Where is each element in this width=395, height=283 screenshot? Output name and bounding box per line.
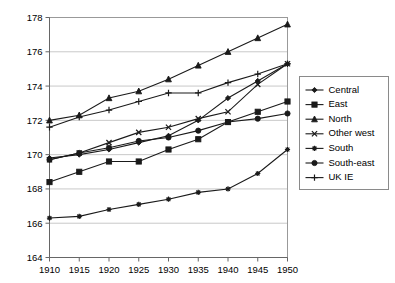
data-point-marker [47, 215, 52, 220]
x-tick-label: 1915 [69, 264, 90, 275]
line-chart: 1641661681701721741761781910191519201925… [0, 0, 395, 283]
data-point-marker [166, 135, 171, 140]
y-tick-label: 164 [27, 252, 43, 263]
y-tick-label: 174 [27, 81, 43, 92]
legend-item-label: South [329, 142, 354, 153]
x-tick-label: 1925 [128, 264, 149, 275]
data-point-marker [195, 90, 201, 96]
series-north [47, 21, 291, 123]
data-point-marker [106, 159, 111, 164]
x-axis-ticks: 191019151920192519301935194019451950 [39, 258, 298, 275]
legend-item-label: UK IE [329, 171, 354, 182]
data-point-marker [255, 171, 260, 176]
legend-item-label: North [329, 113, 352, 124]
data-point-marker [225, 79, 231, 85]
data-point-marker [136, 138, 141, 143]
data-point-marker [285, 147, 290, 152]
data-point-marker [285, 99, 290, 104]
data-point-marker [196, 137, 201, 142]
data-point-marker [285, 21, 291, 27]
data-point-marker [165, 90, 171, 96]
x-tick-label: 1940 [217, 264, 238, 275]
data-point-marker [106, 145, 111, 150]
data-point-marker [255, 116, 260, 121]
data-point-marker [255, 109, 260, 114]
data-point-marker [106, 140, 111, 145]
data-point-marker [255, 71, 261, 77]
y-tick-label: 172 [27, 115, 43, 126]
data-point-marker [136, 98, 142, 104]
x-tick-label: 1935 [188, 264, 209, 275]
data-point-marker [76, 114, 82, 120]
x-tick-label: 1910 [39, 264, 60, 275]
y-tick-label: 176 [27, 46, 43, 57]
series-group [46, 21, 290, 221]
data-point-marker [255, 35, 261, 41]
legend-item-label: East [329, 98, 348, 109]
data-point-marker [77, 214, 82, 219]
x-tick-label: 1930 [158, 264, 179, 275]
x-tick-label: 1920 [98, 264, 119, 275]
data-point-marker [225, 186, 230, 191]
data-point-marker [77, 169, 82, 174]
legend-item-label: Central [329, 84, 360, 95]
data-point-marker [312, 146, 317, 151]
data-point-marker [136, 202, 141, 207]
y-axis-ticks: 164166168170172174176178 [27, 12, 50, 263]
data-point-marker [47, 179, 52, 184]
data-point-marker [312, 160, 317, 165]
data-point-marker [46, 124, 52, 130]
series-south [47, 147, 290, 221]
series-polyline [50, 24, 288, 120]
data-point-marker [166, 197, 171, 202]
series-east [47, 99, 290, 185]
legend-item-label: South-east [329, 157, 375, 168]
series-polyline [50, 150, 288, 219]
legend: CentralEastNorthOther westSouthSouth-eas… [300, 77, 389, 190]
x-tick-label: 1945 [247, 264, 268, 275]
y-tick-label: 170 [27, 149, 43, 160]
data-point-marker [166, 147, 171, 152]
legend-item-label: Other west [329, 127, 375, 138]
data-point-marker [196, 190, 201, 195]
data-point-marker [106, 207, 111, 212]
data-point-marker [136, 159, 141, 164]
data-point-marker [196, 128, 201, 133]
data-point-marker [312, 102, 317, 107]
series-uk-ie [46, 61, 290, 131]
y-tick-label: 168 [27, 183, 43, 194]
y-tick-label: 166 [27, 218, 43, 229]
chart-canvas: 1641661681701721741761781910191519201925… [0, 0, 395, 283]
data-point-marker [285, 111, 290, 116]
series-polyline [50, 102, 288, 183]
gridlines [50, 18, 288, 224]
data-point-marker [106, 107, 112, 113]
data-point-marker [47, 157, 52, 162]
y-tick-label: 178 [27, 12, 43, 23]
x-tick-label: 1950 [277, 264, 298, 275]
data-point-marker [195, 62, 201, 68]
data-point-marker [77, 150, 82, 155]
data-point-marker [225, 119, 230, 124]
data-point-marker [166, 76, 172, 82]
